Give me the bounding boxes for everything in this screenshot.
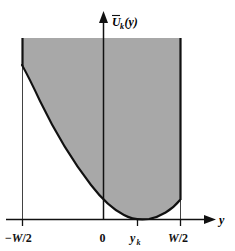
potential-well-figure: U k (y) y −W/2 0 y k W/2 — [0, 0, 235, 251]
yk-base: y — [128, 231, 136, 245]
shaded-region — [22, 38, 180, 219]
yk-subscript: k — [137, 238, 141, 247]
x-tick-label-minus-half-w: −W/2 — [5, 231, 32, 245]
half-text-left: /2 — [22, 231, 32, 245]
y-axis-label-argument: (y) — [125, 15, 138, 29]
x-tick-label-half-w: W/2 — [168, 231, 188, 245]
figure-container: U k (y) y −W/2 0 y k W/2 — [0, 0, 235, 251]
half-text-right: /2 — [178, 231, 188, 245]
x-axis-arrowhead — [204, 215, 216, 224]
y-axis-label-subscript: k — [120, 22, 124, 31]
svg-text:−W/2: −W/2 — [5, 231, 32, 245]
x-tick-label-zero: 0 — [100, 231, 106, 245]
y-axis-label-group: U k (y) — [112, 15, 138, 31]
x-tick-label-yk: y k — [128, 231, 141, 247]
x-axis-label: y — [217, 213, 225, 227]
y-axis-arrowhead — [99, 11, 108, 23]
